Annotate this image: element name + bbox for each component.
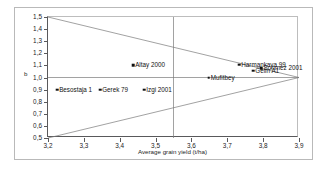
- y-tick: [44, 114, 48, 115]
- y-tick-label: 0,5: [33, 135, 42, 141]
- y-tick-label: 1,0: [33, 74, 42, 80]
- data-point-marker: [252, 70, 255, 73]
- y-tick-label: 1,3: [33, 38, 42, 44]
- y-tick-label: 1,4: [33, 26, 42, 32]
- data-point-label: Besostaja 1: [59, 86, 92, 92]
- y-tick-label: 0,8: [33, 98, 42, 104]
- data-point-marker: [56, 88, 59, 91]
- data-point-label: Altay 2000: [135, 62, 165, 68]
- y-tick: [44, 53, 48, 54]
- y-tick: [44, 78, 48, 79]
- plot-area: 0,50,60,70,80,91,01,11,21,31,41,5 3,23,3…: [47, 16, 298, 137]
- y-tick: [44, 90, 48, 91]
- y-tick-label: 0,6: [33, 123, 42, 129]
- y-tick: [44, 65, 48, 66]
- data-point-label: Gelin A1: [255, 68, 279, 74]
- data-point-marker: [143, 88, 146, 91]
- data-point-label: Mufitbey: [211, 74, 235, 80]
- y-tick: [44, 102, 48, 103]
- y-axis-title: b: [24, 71, 27, 77]
- data-point-marker: [238, 63, 241, 66]
- data-point-label: Gerek 79: [102, 86, 128, 92]
- data-point-marker: [207, 76, 210, 79]
- y-tick: [44, 126, 48, 127]
- y-tick-label: 0,9: [33, 86, 42, 92]
- y-tick: [44, 29, 48, 30]
- y-tick-label: 1,5: [33, 14, 42, 20]
- x-axis-title: Average grain yield (t/ha): [47, 149, 298, 155]
- data-point-label: Izgi 2001: [146, 86, 172, 92]
- data-point-marker: [99, 88, 102, 91]
- chart-lines-layer: [48, 17, 299, 138]
- reference-lines: [48, 17, 299, 138]
- y-tick-label: 1,1: [33, 62, 42, 68]
- y-tick-label: 1,2: [33, 50, 42, 56]
- y-tick-label: 0,7: [33, 111, 42, 117]
- data-point-marker: [132, 64, 135, 67]
- y-tick: [44, 17, 48, 18]
- y-tick: [44, 41, 48, 42]
- chart-figure: 0,50,60,70,80,91,01,11,21,31,41,5 3,23,3…: [0, 0, 327, 173]
